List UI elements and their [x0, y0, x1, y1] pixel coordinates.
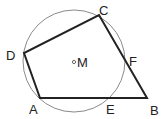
label-a: A: [29, 102, 38, 117]
label-c: C: [99, 3, 108, 18]
label-e: E: [106, 102, 115, 117]
geometry-diagram: A B C D E F M: [0, 0, 163, 119]
label-d: D: [6, 48, 15, 63]
label-m: M: [77, 55, 88, 70]
center-point-m: [72, 60, 75, 63]
circle-m: [23, 10, 125, 112]
label-f: F: [129, 54, 137, 69]
label-b: B: [150, 103, 159, 118]
